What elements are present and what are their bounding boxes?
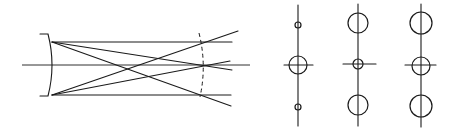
ray	[52, 42, 231, 106]
ray	[52, 31, 238, 95]
spot-column-2	[343, 4, 376, 126]
rays	[52, 31, 238, 106]
spot-column-1	[284, 5, 313, 126]
spot-column-3	[405, 4, 436, 127]
ray-diagram	[22, 31, 250, 106]
optical-diagram	[0, 0, 458, 129]
